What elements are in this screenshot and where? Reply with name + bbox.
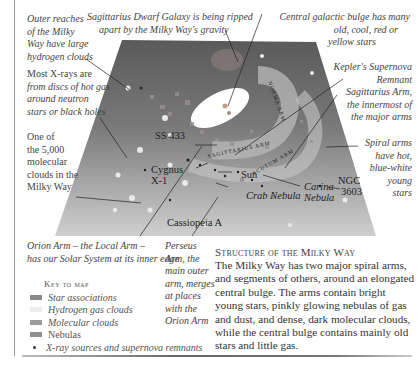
callout-orion-arm: Orion Arm – the Local Arm – has our Sola… [27, 240, 179, 265]
molecular-clouds-swatch-icon [30, 320, 42, 325]
x-ray-dot-icon [33, 346, 36, 349]
article-body: The Milky Way has two major spiral arms,… [215, 259, 415, 353]
callout-molecular-clouds: One of the 5,000 molecular clouds in the… [27, 131, 78, 194]
sagittarius-dwarf-galaxy [211, 49, 243, 71]
key-item-nebulas: Nebulas [30, 329, 202, 342]
callout-central-bulge: Central galactic bulge has many old, coo… [270, 11, 410, 49]
star-associations-swatch-icon [30, 295, 42, 300]
milky-way-page: SAGITTARIUS ARM NORMA ARM SCUTUM ARM SS … [0, 0, 417, 381]
callout-spiral-arms: Spiral arms have hot, blue-white young s… [330, 137, 412, 200]
hydrogen-clouds-swatch-icon [30, 307, 42, 312]
cassiopeia-a-label: Cassiopeia A [167, 217, 222, 228]
key-title: Key to map [44, 279, 202, 289]
callout-kepler: Kepler's Supernova Remnant [320, 61, 412, 86]
crab-nebula-label: Crab Nebula [246, 190, 301, 201]
cygnus-x1-label: X-1 [151, 175, 167, 186]
cygnus-label: Cygnus [151, 164, 183, 175]
key-item-star-associations: Star associations [30, 291, 202, 304]
article-title: Structure of the Milky Way [215, 246, 415, 258]
key-item-hydrogen-gas-clouds: Hydrogen gas clouds [30, 304, 202, 317]
bottom-rule [22, 355, 412, 357]
key-item-x-ray-sources: X-ray sources and supernova remnants [30, 341, 202, 354]
structure-article: Structure of the Milky Way The Milky Way… [215, 246, 415, 353]
callout-outer-reaches: Outer reaches of the Milky Way have larg… [27, 13, 93, 63]
nebulas-swatch-icon [30, 332, 42, 337]
callout-x-rays: Most X-rays are from discs of hot gas ar… [27, 68, 110, 118]
key-item-molecular-clouds: Molecular clouds [30, 316, 202, 329]
map-key: Key to map Star associations Hydrogen ga… [30, 279, 202, 354]
ss433-label: SS 433 [155, 130, 185, 141]
sun-label: Sun [241, 169, 257, 180]
callout-sagittarius-dwarf: Sagittarius Dwarf Galaxy is being ripped… [87, 11, 253, 36]
callout-sagittarius-arm: Sagittarius Arm, the innermost of the ma… [320, 86, 412, 124]
